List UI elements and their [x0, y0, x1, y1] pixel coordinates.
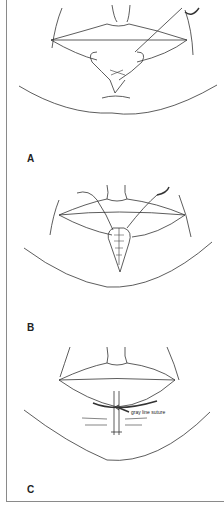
- panel-c-label: C: [27, 484, 34, 495]
- panel-c-drawing: gray line suture: [7, 335, 224, 503]
- panel-a-drawing: [7, 0, 224, 165]
- panel-a-label: A: [27, 153, 34, 164]
- panel-b-drawing: [7, 165, 224, 335]
- panel-c: gray line suture C: [7, 335, 224, 503]
- panel-b: B: [7, 165, 224, 335]
- panel-b-label: B: [27, 322, 34, 333]
- panel-a: A: [7, 0, 224, 165]
- annotation-gray-line-suture: gray line suture: [131, 409, 165, 415]
